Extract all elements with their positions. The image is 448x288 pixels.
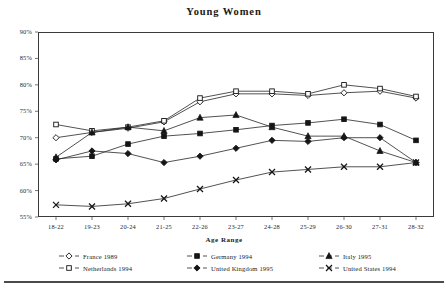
legend-item-label: United Kingdom 1995 [211,265,273,272]
x-axis-tick-label: 18-22 [38,223,74,230]
x-axis-tick-label: 22-26 [182,223,218,230]
y-axis-tick-label: 65% [6,160,32,167]
y-axis-tick-label: 75% [6,107,32,114]
x-axis-tick-label: 21-25 [146,223,182,230]
legend-item[interactable]: United States 1994 [318,263,428,273]
y-axis-tick-label: 80% [6,81,32,88]
x-axis-tick-label: 19-23 [74,223,110,230]
filled-triangle-icon [318,251,340,261]
legend-item[interactable]: United Kingdom 1995 [186,263,318,273]
bottom-divider [4,281,444,283]
cross-x-icon [318,263,340,273]
x-axis-tick-label: 25-29 [290,223,326,230]
y-axis-tick-label: 55% [6,213,32,220]
legend-item-label: Italy 1995 [343,253,371,260]
plot-area [38,32,434,217]
chart-legend: France 1989Germany 1994Italy 1995Netherl… [58,250,398,274]
x-axis-tick-label: 20-24 [110,223,146,230]
y-axis-tick-label: 85% [6,54,32,61]
y-axis-tick-label: 90% [6,28,32,35]
y-axis-tick-label: 70% [6,134,32,141]
y-axis-tick-label: 60% [6,187,32,194]
legend-item-label: Germany 1994 [211,253,252,260]
x-axis-tick-label: 27-31 [362,223,398,230]
legend-item[interactable]: Netherlands 1994 [58,263,186,273]
x-axis-tick-label: 28-32 [398,223,434,230]
legend-item-label: Netherlands 1994 [83,265,132,272]
legend-item[interactable]: France 1989 [58,251,186,261]
x-axis-tick-label: 23-27 [218,223,254,230]
x-axis-title: Age Range [0,236,448,244]
legend-item-label: United States 1994 [343,265,396,272]
x-axis-tick-label: 26-30 [326,223,362,230]
filled-square-icon [186,251,208,261]
x-axis-tick-label: 24-28 [254,223,290,230]
filled-diamond-icon [186,263,208,273]
legend-item[interactable]: Germany 1994 [186,251,318,261]
chart-title: Young Women [0,6,448,17]
open-diamond-icon [58,251,80,261]
legend-item-label: France 1989 [83,253,117,260]
legend-item[interactable]: Italy 1995 [318,251,428,261]
open-square-icon [58,263,80,273]
chart-figure: Young Women 90%85%80%75%70%65%60%55% 18-… [0,0,448,288]
